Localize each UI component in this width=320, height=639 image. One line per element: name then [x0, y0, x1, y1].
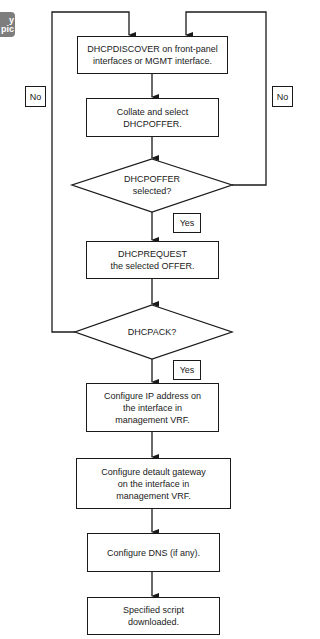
- step-script-downloaded: Specified script downloaded.: [87, 597, 220, 635]
- label-no-right: No: [272, 86, 293, 107]
- decision-offer-selected-text: DHCPOFFER selected?: [102, 172, 202, 198]
- step-configure-ip: Configure IP address on the interface in…: [86, 383, 219, 432]
- step-configure-gateway: Configure detault gateway on the interfa…: [76, 458, 231, 509]
- step-dhcprequest: DHCPREQUEST the selected OFFER.: [86, 241, 219, 279]
- step-configure-dns: Configure DNS (if any).: [87, 533, 220, 572]
- decision-dhcpack-text: DHCPACK?: [102, 326, 202, 338]
- step-collate-select: Collate and select DHCPOFFER.: [86, 98, 219, 137]
- label-no-left: No: [25, 86, 46, 107]
- label-yes-ack: Yes: [173, 360, 201, 380]
- label-yes-offer: Yes: [173, 213, 201, 233]
- step-dhcpdiscover: DHCPDISCOVER on front-panel interfaces o…: [77, 36, 228, 74]
